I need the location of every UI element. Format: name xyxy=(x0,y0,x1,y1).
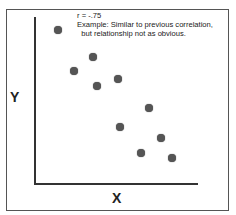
y-axis-line xyxy=(34,17,36,185)
data-point xyxy=(89,53,97,61)
chart-frame xyxy=(6,9,229,211)
data-point xyxy=(114,75,122,83)
data-point xyxy=(168,154,176,162)
annotation-line-2: but relationship not as obvious. xyxy=(77,29,213,38)
x-axis-label: X xyxy=(112,190,121,206)
data-point xyxy=(157,134,165,142)
data-point xyxy=(70,67,78,75)
r-value-label: r = -.75 xyxy=(77,11,213,20)
data-point xyxy=(137,149,145,157)
data-point xyxy=(145,104,153,112)
annotation-line-1: Example: Similar to previous correlation… xyxy=(77,20,213,29)
annotation: r = -.75Example: Similar to previous cor… xyxy=(77,11,213,38)
data-point xyxy=(116,123,124,131)
data-point xyxy=(93,82,101,90)
data-point xyxy=(54,26,62,34)
x-axis-line xyxy=(34,183,198,185)
y-axis-label: Y xyxy=(10,89,19,105)
